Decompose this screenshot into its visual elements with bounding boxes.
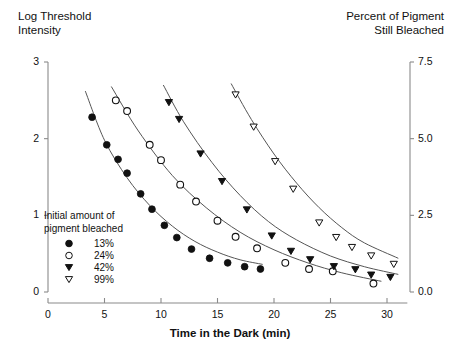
data-point-42% (387, 274, 394, 280)
data-point-24% (124, 108, 131, 115)
data-point-42% (307, 257, 314, 263)
x-axis-tick-label: 20 (259, 308, 289, 320)
fit-curve-99% (231, 84, 398, 259)
y-axis-left-tick-label: 3 (15, 55, 39, 67)
y-axis-right-tick-label: 5.0 (418, 132, 450, 144)
data-point-24% (329, 268, 336, 275)
data-point-24% (214, 217, 221, 224)
data-point-99% (390, 261, 397, 267)
data-point-99% (290, 186, 297, 192)
data-point-99% (272, 159, 279, 165)
data-point-13% (224, 259, 231, 266)
fit-curve-42% (163, 85, 398, 274)
data-point-42% (165, 100, 172, 106)
data-point-99% (333, 234, 340, 240)
x-axis-tick-label: 5 (90, 308, 120, 320)
x-axis-tick-label: 0 (33, 308, 63, 320)
data-point-24% (282, 259, 289, 266)
data-point-24% (306, 266, 313, 273)
y-axis-right-tick-label: 2.5 (418, 208, 450, 220)
y-axis-right-tick-label: 0.0 (418, 285, 450, 297)
legend-item: 42% (56, 261, 114, 273)
data-point-42% (197, 151, 204, 157)
fit-curve-24% (111, 87, 381, 282)
data-point-42% (243, 207, 250, 213)
data-point-24% (158, 157, 165, 164)
data-point-24% (112, 97, 119, 104)
data-point-13% (173, 234, 180, 241)
legend-item: 99% (56, 273, 114, 285)
x-axis-tick-label: 15 (203, 308, 233, 320)
x-axis-tick-label: 25 (316, 308, 346, 320)
legend-heading: Initial amount of pigment bleached (44, 210, 123, 235)
data-point-13% (206, 255, 213, 262)
data-point-13% (137, 190, 144, 197)
y-axis-left-tick-label: 0 (15, 285, 39, 297)
data-point-24% (254, 245, 261, 252)
data-point-13% (161, 222, 168, 229)
legend-symbol-cell (56, 249, 82, 261)
x-axis-title: Time in the Dark (min) (0, 327, 460, 339)
data-point-13% (89, 114, 96, 121)
data-point-24% (232, 233, 239, 240)
legend-symbol-cell (56, 273, 82, 285)
data-point-13% (124, 170, 131, 177)
data-point-13% (149, 206, 156, 213)
legend-item-label: 42% (82, 261, 114, 273)
x-axis-tick-label: 30 (372, 308, 402, 320)
legend-item-label: 24% (82, 249, 114, 261)
data-point-99% (316, 220, 323, 226)
data-point-13% (241, 263, 248, 270)
data-point-42% (218, 179, 225, 185)
legend-items: 13%24%42%99% (56, 237, 114, 285)
legend-symbol-cell (56, 261, 82, 273)
y-axis-right-tick-label: 7.5 (418, 55, 450, 67)
data-point-24% (370, 280, 377, 287)
x-axis-tick-label: 10 (146, 308, 176, 320)
data-point-13% (188, 246, 195, 253)
data-point-42% (268, 233, 275, 239)
data-point-42% (368, 272, 375, 278)
legend-marker-filled-circle (63, 238, 75, 249)
data-point-13% (103, 141, 110, 148)
y-axis-left-tick-label: 1 (15, 208, 39, 220)
legend-symbol-cell (56, 237, 82, 249)
legend: Initial amount of pigment bleached 13%24… (44, 210, 123, 285)
data-point-24% (177, 181, 184, 188)
legend-marker-open-triangle-down (63, 274, 75, 285)
data-point-13% (115, 156, 122, 163)
data-point-42% (287, 248, 294, 254)
legend-item-label: 13% (82, 237, 114, 249)
data-point-24% (146, 141, 153, 148)
data-point-99% (348, 244, 355, 250)
chart-figure: Log Threshold Intensity Percent of Pigme… (0, 0, 460, 355)
data-point-42% (352, 267, 359, 273)
plot-area (0, 0, 460, 355)
y-axis-left-tick-label: 2 (15, 132, 39, 144)
data-point-13% (257, 266, 264, 273)
legend-marker-open-circle (63, 250, 75, 261)
legend-item: 13% (56, 237, 114, 249)
data-point-24% (193, 198, 200, 205)
legend-item-label: 99% (82, 273, 114, 285)
legend-item: 24% (56, 249, 114, 261)
data-point-99% (368, 253, 375, 259)
legend-marker-filled-triangle-down (63, 262, 75, 273)
